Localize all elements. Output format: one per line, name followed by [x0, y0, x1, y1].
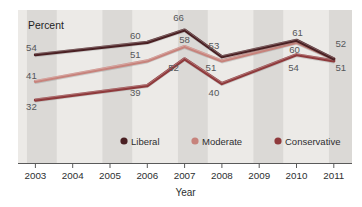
point-label: 52	[168, 62, 179, 73]
x-axis-ticks-group: 200320042005200620072008200920102011	[25, 164, 345, 182]
point-label: 54	[26, 42, 37, 53]
legend: LiberalModerateConservative	[120, 136, 340, 147]
point-label: 32	[26, 101, 37, 112]
chart-figure: 5460665361524151585160323952405451 20032…	[0, 0, 362, 207]
x-tick-label: 2010	[286, 170, 308, 181]
point-label: 40	[209, 87, 220, 98]
x-tick-label: 2011	[323, 170, 344, 181]
x-axis-caption: Year	[175, 187, 196, 198]
x-tick-label: 2009	[248, 170, 270, 181]
x-tick-label: 2008	[211, 170, 233, 181]
point-label: 54	[288, 62, 299, 73]
line-chart-svg: 5460665361524151585160323952405451 20032…	[0, 0, 362, 207]
point-label: 52	[335, 38, 346, 49]
point-label: 41	[26, 70, 37, 81]
y-axis-caption: Percent	[28, 20, 64, 31]
legend-dot-moderate	[191, 137, 198, 144]
x-tick-label: 2005	[99, 170, 121, 181]
legend-label-liberal: Liberal	[131, 136, 160, 147]
x-tick-label: 2006	[136, 170, 158, 181]
point-label: 39	[130, 87, 141, 98]
legend-label-moderate: Moderate	[202, 136, 242, 147]
legend-label-conservative: Conservative	[285, 136, 340, 147]
point-label: 51	[206, 62, 217, 73]
point-label: 51	[130, 49, 141, 60]
point-label: 60	[289, 44, 300, 55]
point-label: 61	[292, 27, 303, 38]
legend-dot-conservative	[274, 137, 281, 144]
point-label: 51	[335, 62, 346, 73]
point-label: 60	[130, 30, 141, 41]
x-tick-label: 2004	[62, 170, 84, 181]
legend-dot-liberal	[120, 137, 127, 144]
point-label: 53	[209, 40, 220, 51]
x-tick-label: 2007	[174, 170, 196, 181]
point-label: 66	[173, 12, 184, 23]
point-label: 58	[179, 34, 190, 45]
x-tick-label: 2003	[25, 170, 47, 181]
